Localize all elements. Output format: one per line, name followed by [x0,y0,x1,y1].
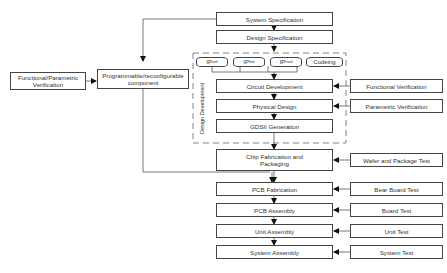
unit-assembly-label: Unit Assembly [255,228,294,235]
design-specification-label: Design Specification [246,34,302,41]
ip-hard-sub: hard [285,60,292,64]
ip-firm-sub: firm [249,60,255,64]
parametric-verification-label: Parametric Verification [366,103,428,110]
chip-fabrication-box: Chip Fabrication and Packaging [216,149,333,171]
system-assembly-label: System Assembly [250,249,299,256]
ip-firm-block: IPfirm [233,57,265,67]
ip-hard-block: IPhard [270,57,302,67]
wafer-package-test-box: Wafer and Package Test [350,153,443,167]
circuit-development-box: Circuit Development [216,79,333,93]
unit-assembly-box: Unit Assembly [216,224,333,238]
coding-block: Codeing [306,57,343,67]
system-specification-label: System Specification [246,16,303,23]
design-development-label: Design Development [199,98,205,134]
physical-design-label: Physical Design [252,103,296,110]
design-specification-box: Design Specification [216,30,333,44]
coding-label: Codeing [313,59,335,65]
ip-soft-sub: soft [212,60,218,64]
bear-board-test-box: Bear Board Test [350,182,443,196]
physical-design-box: Physical Design [216,99,333,113]
programmable-component-box: Programmable/reconfigurable component [97,69,189,89]
functional-verification-box: Functional Verification [350,79,443,93]
board-test-box: Board Test [350,203,443,217]
programmable-component-label: Programmable/reconfigurable component [101,72,185,86]
functional-parametric-verification-box: Functional/Parametric Verification [10,72,86,90]
pcb-assembly-label: PCB Assembly [254,207,295,214]
wafer-package-test-label: Wafer and Package Test [363,157,430,164]
pcb-fabrication-box: PCB Fabrication [216,182,333,196]
ip-soft-block: IPsoft [196,57,228,67]
board-test-label: Board Test [382,207,411,214]
unit-test-box: Unit Test [350,224,443,238]
system-test-label: System Test [380,249,414,256]
functional-verification-label: Functional Verification [366,83,427,90]
gdsii-generation-box: GDSII Generation [216,119,333,133]
bear-board-test-label: Bear Board Test [374,186,418,193]
pcb-assembly-box: PCB Assembly [216,203,333,217]
parametric-verification-box: Parametric Verification [350,99,443,113]
pcb-fabrication-label: PCB Fabrication [252,186,297,193]
system-test-box: System Test [350,245,443,259]
unit-test-label: Unit Test [385,228,409,235]
system-assembly-box: System Assembly [216,245,333,259]
functional-parametric-verification-label: Functional/Parametric Verification [14,74,82,88]
system-specification-box: System Specification [216,12,333,26]
chip-fabrication-label: Chip Fabrication and Packaging [240,153,310,167]
circuit-development-label: Circuit Development [247,83,303,90]
gdsii-generation-label: GDSII Generation [250,123,299,130]
